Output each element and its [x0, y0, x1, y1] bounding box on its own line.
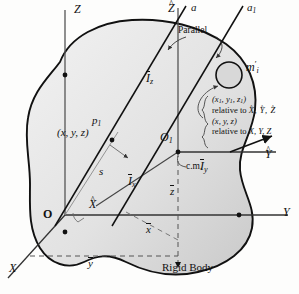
- point-label-p1: p1: [92, 115, 101, 127]
- axis-label-X: X: [9, 262, 16, 275]
- vector-label-s: s: [99, 166, 103, 178]
- axis-label-Z: Z: [74, 3, 81, 16]
- dimension-label-ybar: y: [88, 258, 93, 270]
- label-center-of-mass: c.m.: [186, 162, 202, 172]
- intersection-dot: [237, 213, 242, 218]
- point-p1-dot: [110, 138, 115, 143]
- annotation-line-4: relative to X, Y, Z: [212, 126, 276, 136]
- line-label-a: a: [191, 2, 197, 14]
- mass-element-circle: [216, 62, 242, 88]
- point-O1-dot: [176, 150, 181, 155]
- annotation-coordinates-block: (x1, y1, z1) relative to ^X, ^Y, ^Z (x, …: [212, 94, 276, 137]
- inertia-label-Ix: Ix: [128, 175, 136, 189]
- point-label-O: O: [43, 208, 52, 221]
- intersection-dot: [63, 73, 68, 78]
- mass-element-label: m′i: [246, 60, 259, 75]
- diagram-vector-canvas: [0, 0, 299, 294]
- inertia-label-Iz: Iz: [146, 72, 153, 86]
- point-label-O1: O1: [160, 131, 173, 145]
- annotation-line-2: relative to ^X, ^Y, ^Z: [212, 105, 276, 115]
- axis-label-Y-hat: ^Y: [265, 148, 272, 161]
- dimension-label-xbar: x: [146, 224, 151, 236]
- figure-rigid-body-diagram: Z Y X ^Z ^Y ^X a a1 Parallel Iz Ix Iy O …: [0, 0, 299, 294]
- annotation-line-3: (x, y, z): [212, 116, 276, 126]
- parallel-note: Parallel: [178, 26, 207, 36]
- axis-label-X-hat: ^X: [89, 198, 96, 211]
- rigid-body-outline: [27, 20, 256, 275]
- line-label-a1: a1: [247, 2, 256, 14]
- figure-caption-rigid-body: Rigid Body: [162, 262, 213, 274]
- point-label-p1-coords: (x, y, z): [57, 127, 89, 139]
- intersection-dot: [63, 230, 68, 235]
- axis-label-Z-hat: ^Z: [168, 2, 175, 15]
- axis-label-Y: Y: [283, 206, 290, 219]
- annotation-line-1: (x1, y1, z1): [212, 94, 276, 105]
- dimension-label-zbar: z: [170, 186, 174, 198]
